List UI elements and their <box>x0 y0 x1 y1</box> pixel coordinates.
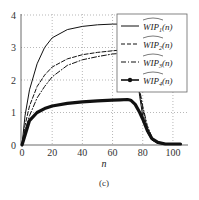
x-axis-label: n <box>102 158 107 169</box>
x-tick-label: 100 <box>165 147 180 158</box>
x-tick-label: 40 <box>77 147 87 158</box>
legend-label: WIP4(n) <box>143 76 173 87</box>
x-tick-label: 0 <box>20 147 25 158</box>
legend-label: WIP3(n) <box>143 58 173 69</box>
y-tick-label: 4 <box>11 10 16 21</box>
legend: WIP1(n)WIP2(n)WIP3(n)WIP4(n) <box>117 14 187 92</box>
legend-label: WIP2(n) <box>143 40 173 51</box>
figure-caption: (c) <box>99 178 109 188</box>
y-tick-label: 2 <box>11 75 16 86</box>
y-tick-label: 0 <box>11 140 16 151</box>
legend-label: WIP1(n) <box>143 22 173 33</box>
legend-marker-icon <box>128 78 132 82</box>
line-chart: 02040608010001234 WIP1(n)WIP2(n)WIP3(n)W… <box>0 0 199 200</box>
series-line-4 <box>22 100 181 146</box>
y-tick-label: 1 <box>11 107 16 118</box>
x-tick-label: 60 <box>108 147 118 158</box>
x-tick-label: 80 <box>138 147 148 158</box>
x-tick-label: 20 <box>47 147 57 158</box>
y-tick-label: 3 <box>11 42 16 53</box>
